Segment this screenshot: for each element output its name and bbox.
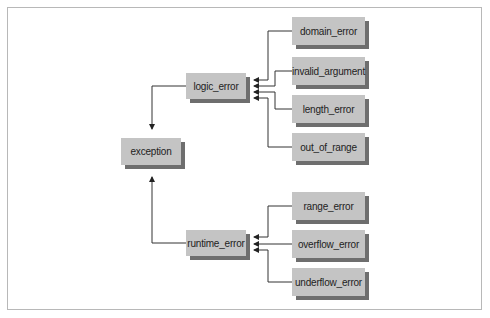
node-length-error: length_error [292,95,365,123]
node-exception: exception [121,138,181,165]
node-range-error: range_error [292,192,365,220]
node-label: invalid_argument [292,57,365,85]
node-label: exception [121,138,181,165]
node-invalid-argument: invalid_argument [292,57,365,85]
node-label: range_error [292,192,365,220]
node-label: logic_error [186,73,246,99]
node-out-of-range: out_of_range [292,133,365,161]
node-logic-error: logic_error [186,73,246,99]
node-overflow-error: overflow_error [292,230,365,258]
node-runtime-error: runtime_error [186,230,246,256]
node-label: length_error [292,95,365,123]
node-label: overflow_error [292,230,365,258]
inheritance-edges [0,0,490,318]
node-label: runtime_error [186,230,246,256]
node-domain-error: domain_error [292,17,365,45]
node-label: domain_error [292,17,365,45]
node-label: out_of_range [292,133,365,161]
node-underflow-error: underflow_error [292,268,365,296]
node-label: underflow_error [292,268,365,296]
